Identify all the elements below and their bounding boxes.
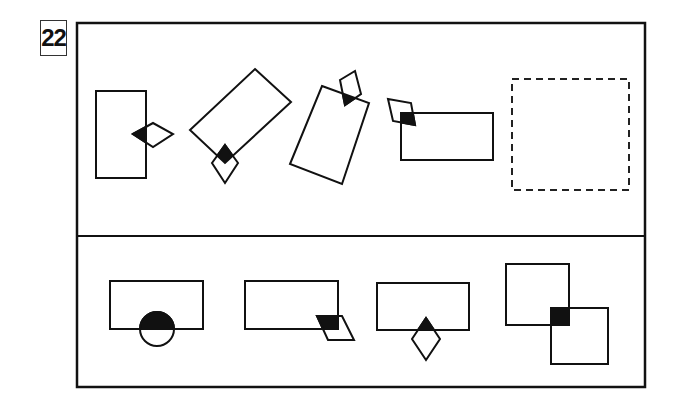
option-a[interactable]: [110, 281, 203, 346]
question-figure-4: [388, 99, 493, 160]
puzzle-canvas: [0, 0, 678, 409]
option-c[interactable]: [377, 283, 469, 360]
question-figure-1: [96, 91, 173, 178]
option-d[interactable]: [506, 264, 608, 364]
question-figure-3: [290, 71, 369, 184]
outer-frame: [77, 23, 645, 387]
option-b[interactable]: [245, 281, 354, 340]
answer-placeholder-box: [512, 79, 629, 190]
question-figure-2: [190, 69, 291, 183]
